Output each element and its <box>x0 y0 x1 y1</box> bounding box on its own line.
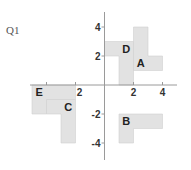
shape-label-a: A <box>137 57 145 69</box>
shape-label-e: E <box>36 86 43 98</box>
shape-label-c: C <box>64 101 72 113</box>
y-tick-label: -2 <box>92 109 101 120</box>
x-tick-label: 4 <box>160 87 166 98</box>
x-tick-label: 2 <box>131 87 137 98</box>
shape-label-b: B <box>122 115 130 127</box>
y-tick-label: 4 <box>95 22 101 33</box>
y-tick-label: 2 <box>95 51 101 62</box>
coordinate-plane: 22442-2-4 ABCDE <box>0 0 191 170</box>
y-tick-label: -4 <box>92 138 101 149</box>
shape-label-d: D <box>122 43 130 55</box>
x-tick-label: 2 <box>77 87 83 98</box>
